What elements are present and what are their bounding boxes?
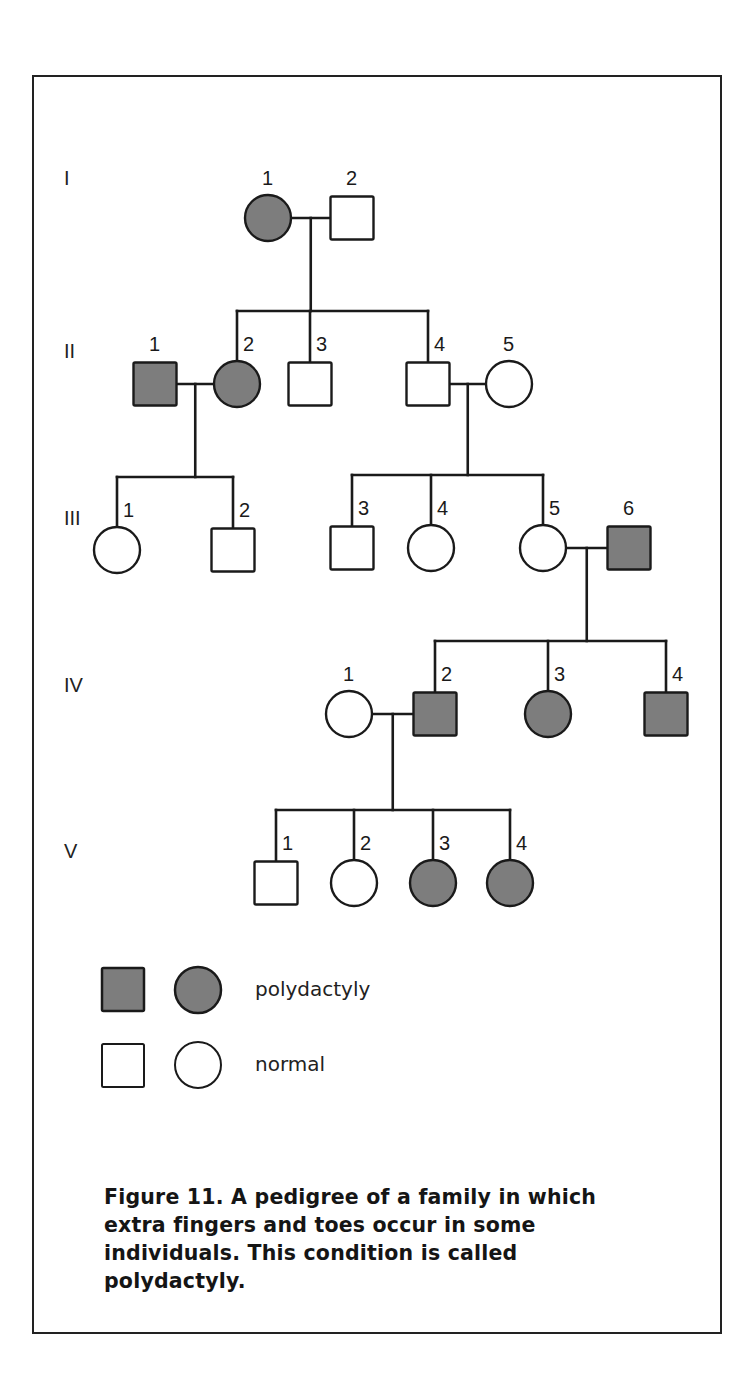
normal-female-icon: [520, 525, 566, 571]
legend-affected-female-icon: [175, 967, 221, 1013]
generation-label: V: [64, 840, 78, 862]
individual-number: 4: [516, 832, 527, 854]
figure-caption: Figure 11. A pedigree of a family in whi…: [104, 1183, 704, 1295]
individual-number: 4: [672, 663, 683, 685]
individual-III-6: 6: [608, 497, 651, 570]
individual-number: 5: [503, 333, 514, 355]
affected-male-icon: [645, 693, 688, 736]
individual-number: 1: [282, 832, 293, 854]
legend-normal-label: normal: [255, 1052, 325, 1076]
individual-number: 3: [439, 832, 450, 854]
individual-II-1: 1: [134, 333, 177, 406]
individual-number: 1: [262, 167, 273, 189]
normal-female-icon: [486, 361, 532, 407]
generation-labels: IIIIIIIVV: [64, 167, 84, 862]
normal-female-icon: [326, 691, 372, 737]
normal-male-icon: [407, 363, 450, 406]
individual-IV-1: 1: [326, 663, 372, 737]
normal-female-icon: [331, 860, 377, 906]
affected-female-icon: [487, 860, 533, 906]
individual-number: 2: [243, 333, 254, 355]
individual-number: 4: [437, 497, 448, 519]
generation-label: IV: [64, 674, 84, 696]
individual-symbols: 121234512345612341234: [94, 167, 688, 906]
affected-female-icon: [214, 361, 260, 407]
pedigree-figure: IIIIIIIVV 121234512345612341234 polydact…: [0, 0, 752, 1386]
affected-male-icon: [414, 693, 457, 736]
individual-I-1: 1: [245, 167, 291, 241]
normal-female-icon: [408, 525, 454, 571]
pedigree-chart: IIIIIIIVV 121234512345612341234: [0, 0, 752, 1386]
individual-number: 6: [623, 497, 634, 519]
caption-line: polydactyly.: [104, 1267, 704, 1295]
individual-number: 4: [434, 333, 445, 355]
normal-male-icon: [331, 527, 374, 570]
normal-female-icon: [94, 527, 140, 573]
individual-number: 5: [549, 497, 560, 519]
normal-male-icon: [212, 529, 255, 572]
legend-normal-male-icon: [102, 1044, 144, 1087]
generation-label: I: [64, 167, 70, 189]
affected-male-icon: [134, 363, 177, 406]
individual-number: 3: [554, 663, 565, 685]
caption-line: extra fingers and toes occur in some: [104, 1211, 704, 1239]
caption-line: individuals. This condition is called: [104, 1239, 704, 1267]
affected-male-icon: [608, 527, 651, 570]
legend-normal-female-icon: [175, 1042, 221, 1088]
individual-number: 2: [346, 167, 357, 189]
individual-number: 2: [360, 832, 371, 854]
individual-number: 3: [316, 333, 327, 355]
individual-number: 1: [149, 333, 160, 355]
normal-male-icon: [289, 363, 332, 406]
generation-label: III: [64, 507, 81, 529]
affected-female-icon: [410, 860, 456, 906]
connector-lines: [117, 218, 666, 862]
legend-affected-male-icon: [102, 968, 144, 1011]
legend-affected-label: polydactyly: [255, 977, 370, 1001]
individual-number: 1: [343, 663, 354, 685]
normal-male-icon: [331, 197, 374, 240]
affected-female-icon: [245, 195, 291, 241]
legend-symbols: [102, 967, 221, 1088]
individual-I-2: 2: [331, 167, 374, 240]
individual-number: 2: [441, 663, 452, 685]
caption-line: Figure 11. A pedigree of a family in whi…: [104, 1183, 704, 1211]
normal-male-icon: [255, 862, 298, 905]
individual-II-5: 5: [486, 333, 532, 407]
individual-number: 2: [239, 499, 250, 521]
generation-label: II: [64, 340, 75, 362]
affected-female-icon: [525, 691, 571, 737]
individual-number: 3: [358, 497, 369, 519]
individual-number: 1: [123, 499, 134, 521]
